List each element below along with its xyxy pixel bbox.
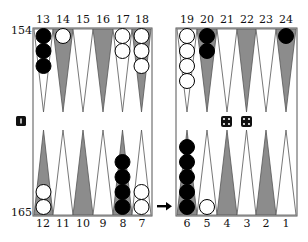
left-board [33,28,152,216]
checker-black[interactable] [115,155,130,170]
turn-arrow-icon [157,202,172,210]
checker-black[interactable] [36,44,51,59]
checker-black[interactable] [115,170,130,185]
die-1 [221,116,232,127]
checker-white[interactable] [134,29,149,44]
checker-white[interactable] [36,200,51,215]
checker-black[interactable] [200,44,215,59]
checker-white[interactable] [134,44,149,59]
checker-white[interactable] [180,44,195,59]
board-graphic [0,0,308,242]
checker-white[interactable] [134,200,149,215]
checker-white[interactable] [134,185,149,200]
doubling-cube[interactable] [16,116,26,126]
checker-white[interactable] [180,74,195,89]
checker-black[interactable] [36,29,51,44]
checker-black[interactable] [180,140,195,155]
checker-black[interactable] [36,59,51,74]
checker-white[interactable] [180,29,195,44]
checker-white[interactable] [115,44,130,59]
checker-white[interactable] [200,200,215,215]
checker-black[interactable] [200,29,215,44]
checker-black[interactable] [180,170,195,185]
checker-white[interactable] [134,59,149,74]
checker-black[interactable] [180,185,195,200]
checker-black[interactable] [279,29,294,44]
checker-white[interactable] [36,185,51,200]
checker-white[interactable] [115,29,130,44]
checker-white[interactable] [56,29,71,44]
checker-black[interactable] [180,155,195,170]
checker-black[interactable] [115,200,130,215]
checker-white[interactable] [180,59,195,74]
die-2 [241,116,252,127]
checker-black[interactable] [115,185,130,200]
checker-black[interactable] [180,200,195,215]
